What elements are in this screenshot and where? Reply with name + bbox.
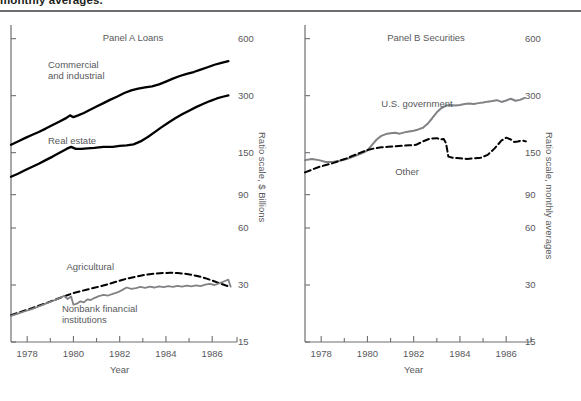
series-line <box>11 95 228 176</box>
header-divider-rule <box>0 10 581 12</box>
y-axis-tick-label: 60 <box>238 222 249 233</box>
panel-a-loans: Panel A Loans Commercial and industrialR… <box>0 14 290 401</box>
x-axis-title: Year <box>110 364 129 375</box>
x-axis-tick-label: 1984 <box>449 348 470 359</box>
y-axis-title: Ratio scale, $ Billions <box>257 132 268 222</box>
y-axis-tick-label: 90 <box>238 189 249 200</box>
x-axis-tick-label: 1980 <box>63 348 84 359</box>
figure-header-title: monthly averages. <box>0 0 103 6</box>
y-axis-tick-label: 15 <box>238 336 249 347</box>
series-annotation-label: Real estate <box>48 135 96 147</box>
y-axis-tick-label: 600 <box>525 33 541 44</box>
series-annotation-label: Other <box>395 166 419 178</box>
x-axis-tick-label: 1984 <box>155 348 176 359</box>
y-axis-tick-label: 300 <box>525 90 541 101</box>
series-annotation-label: Commercial and industrial <box>48 59 105 82</box>
y-axis-tick-label: 30 <box>238 279 249 290</box>
figure-root: monthly averages. Panel A Loans Commerci… <box>0 0 581 401</box>
y-axis-tick-label: 150 <box>525 147 541 158</box>
x-axis-tick-label: 1978 <box>17 348 38 359</box>
y-axis-tick-label: 300 <box>238 90 254 101</box>
series-annotation-label: U.S. government <box>381 98 452 110</box>
y-axis-tick-label: 60 <box>525 222 536 233</box>
y-axis-tick-label: 600 <box>238 33 254 44</box>
y-axis-title: Ratio scale, monthly averages <box>544 132 555 259</box>
y-axis-tick-label: 90 <box>525 189 536 200</box>
series-annotation-label: Agricultural <box>67 261 115 273</box>
x-axis-tick-label: 1982 <box>109 348 130 359</box>
x-axis-tick-label: 1986 <box>202 348 223 359</box>
series-annotation-label: Nonbank financial institutions <box>62 303 138 326</box>
y-axis-tick-label: 150 <box>238 147 254 158</box>
panel-b-plot-area <box>291 14 581 401</box>
x-axis-tick-label: 1982 <box>403 348 424 359</box>
series-line <box>11 61 228 145</box>
y-axis-tick-label: 15 <box>525 336 536 347</box>
x-axis-tick-label: 1986 <box>496 348 517 359</box>
x-axis-tick-label: 1980 <box>357 348 378 359</box>
y-axis-tick-label: 30 <box>525 279 536 290</box>
panel-b-securities: Panel B Securities U.S. governmentOther1… <box>291 14 581 401</box>
x-axis-title: Year <box>404 364 423 375</box>
x-axis-tick-label: 1978 <box>311 348 332 359</box>
